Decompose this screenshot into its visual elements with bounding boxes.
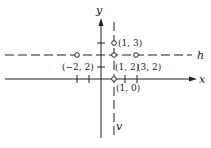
point-3-2 — [134, 53, 139, 58]
point-label: (−2, 2) — [62, 62, 94, 72]
point-1-0 — [112, 77, 117, 82]
coordinate-diagram: x y h v (1, 3) (−2, 2) (1, 2) (3, 2) (1,… — [0, 0, 211, 148]
h-line-label: h — [197, 49, 204, 62]
point-neg2-2 — [75, 53, 80, 58]
point-label: (3, 2) — [137, 62, 161, 72]
point-label: (1, 2) — [115, 62, 139, 72]
point-1-2 — [112, 53, 117, 58]
x-axis-label: x — [199, 73, 206, 86]
point-label: (1, 3) — [118, 38, 142, 48]
point-label: (1, 0) — [116, 83, 140, 93]
y-axis-arrow-icon — [99, 18, 104, 26]
y-axis-label: y — [95, 4, 103, 17]
diagram-canvas: x y h v (1, 3) (−2, 2) (1, 2) (3, 2) (1,… — [0, 0, 211, 148]
v-line-label: v — [116, 120, 123, 133]
point-1-3 — [112, 41, 117, 46]
x-axis-arrow-icon — [189, 77, 197, 82]
